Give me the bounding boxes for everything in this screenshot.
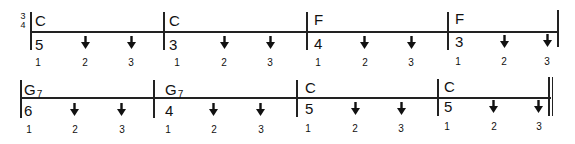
down-arrow-icon: [397, 102, 406, 115]
down-arrow-icon: [127, 36, 136, 49]
beat-count: 2: [359, 58, 371, 68]
down-arrow-icon: [489, 100, 498, 113]
beat-count: 3: [125, 58, 137, 68]
down-arrow-icon: [360, 36, 369, 49]
barline: [30, 12, 32, 50]
beat-count: 2: [218, 58, 230, 68]
beat-count: 1: [452, 57, 464, 67]
barline: [447, 12, 449, 50]
chord-label: G7: [24, 82, 42, 102]
down-arrow-icon: [500, 35, 509, 48]
measure-number: 3: [455, 34, 463, 49]
beat-count: 2: [498, 57, 510, 67]
chord-label: F: [314, 12, 324, 32]
staff-line: [30, 31, 558, 33]
down-arrow-icon: [220, 36, 229, 49]
beat-count: 3: [116, 125, 128, 135]
measure-number: 5: [35, 37, 43, 52]
beat-count: 2: [79, 58, 91, 68]
down-arrow-icon: [534, 100, 543, 113]
down-arrow-icon: [117, 103, 126, 116]
measure-number: 6: [24, 103, 32, 118]
chord-label: C: [35, 13, 47, 33]
chord-label: C: [169, 13, 181, 33]
measure-number: 4: [314, 36, 322, 51]
measure-number: 5: [305, 101, 313, 116]
final-double-barline: [548, 77, 550, 116]
chord-label: C: [444, 79, 456, 99]
down-arrow-icon: [209, 103, 218, 116]
down-arrow-icon: [351, 102, 360, 115]
measure-number: 3: [169, 37, 177, 52]
beat-count: 1: [312, 58, 324, 68]
beat-count: 3: [395, 124, 407, 134]
down-arrow-icon: [256, 103, 265, 116]
beat-count: 3: [405, 58, 417, 68]
down-arrow-icon: [407, 36, 416, 49]
beat-count: 2: [349, 124, 361, 134]
beat-count: 1: [171, 58, 183, 68]
beat-count: 1: [441, 122, 453, 132]
barline: [20, 80, 22, 118]
chord-label: C: [305, 80, 317, 100]
beat-count: 3: [255, 125, 267, 135]
barline: [437, 79, 439, 116]
barline: [163, 12, 165, 50]
down-arrow-icon: [543, 34, 552, 47]
chord-label: G7: [165, 82, 183, 102]
beat-count: 2: [488, 122, 500, 132]
barline: [306, 12, 308, 50]
final-double-barline: [552, 77, 554, 116]
beat-count: 2: [208, 125, 220, 135]
time-signature-bottom: 4: [19, 21, 27, 30]
end-barline: [557, 10, 559, 47]
measure-number: 5: [444, 99, 452, 114]
beat-count: 1: [23, 125, 35, 135]
beat-count: 1: [162, 125, 174, 135]
beat-count: 1: [32, 58, 44, 68]
beat-count: 3: [264, 58, 276, 68]
barline: [153, 80, 155, 118]
staff-line: [20, 97, 551, 99]
down-arrow-icon: [266, 36, 275, 49]
down-arrow-icon: [70, 103, 79, 116]
barline: [296, 80, 298, 117]
measure-number: 4: [165, 103, 173, 118]
beat-count: 1: [302, 124, 314, 134]
chord-label: F: [455, 11, 465, 31]
down-arrow-icon: [81, 36, 90, 49]
beat-count: 3: [541, 57, 553, 67]
beat-count: 2: [69, 125, 81, 135]
beat-count: 3: [533, 122, 545, 132]
